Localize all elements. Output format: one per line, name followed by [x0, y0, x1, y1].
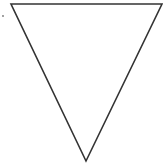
diagram-canvas [0, 0, 163, 167]
inverted-triangle [11, 4, 162, 161]
marker-dot [2, 15, 4, 17]
